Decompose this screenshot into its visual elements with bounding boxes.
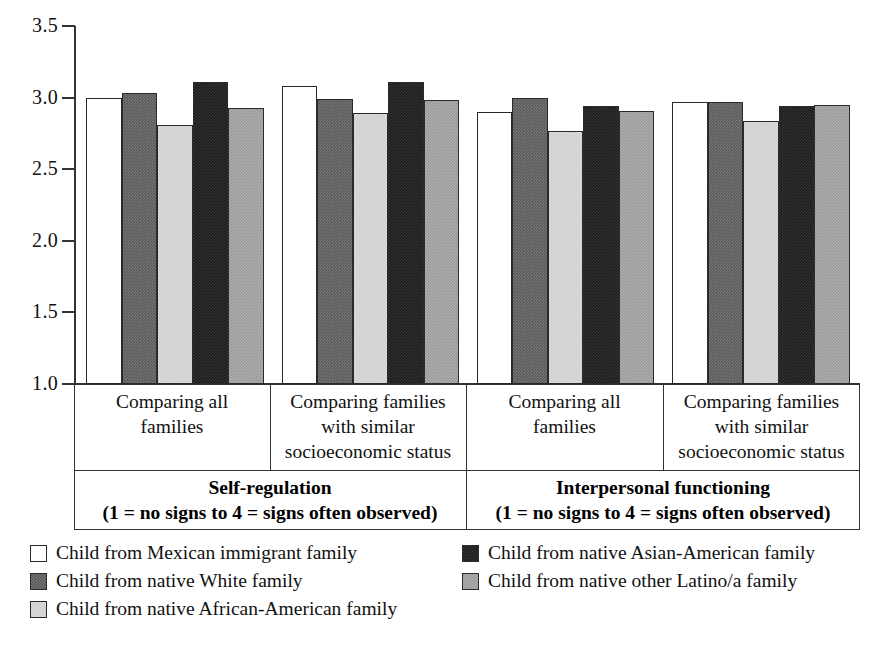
y-axis-tick-label: 2.0 <box>2 230 58 250</box>
panel-title-text: Self-regulation <box>74 475 466 500</box>
group-label-line: Comparing all <box>466 389 663 414</box>
category-label-band: Comparing allfamiliesComparing familiesw… <box>74 385 860 530</box>
legend-item: Child from native White family <box>30 568 303 594</box>
legend-label: Child from native other Latino/a family <box>488 570 797 592</box>
legend-label: Child from native African-American famil… <box>56 598 397 620</box>
bar <box>512 98 548 384</box>
y-axis-tick-label: 1.5 <box>2 301 58 321</box>
bar <box>388 82 424 384</box>
panel-subtitle-text: (1 = no signs to 4 = signs often observe… <box>466 500 860 525</box>
bar <box>193 82 229 384</box>
group-label-line: with similar <box>270 414 466 439</box>
panel-title-text: Interpersonal functioning <box>466 475 860 500</box>
bar <box>583 106 619 384</box>
bar <box>814 105 850 384</box>
panel-title-rule <box>466 470 860 471</box>
legend-swatch-icon <box>462 573 479 590</box>
group-label-line: socioeconomic status <box>270 439 466 464</box>
legend-swatch-icon <box>30 545 47 562</box>
bar <box>708 102 744 384</box>
group-label-line: Comparing families <box>270 389 466 414</box>
group-label-line: families <box>74 414 270 439</box>
bar <box>282 86 318 384</box>
bar-chart-figure: 3.53.02.52.01.51.0 Comparing allfamilies… <box>0 0 874 647</box>
bar <box>743 121 779 384</box>
bar <box>86 98 122 384</box>
panel-title-rule <box>74 470 466 471</box>
group-label: Comparing allfamilies <box>466 389 663 439</box>
bar <box>548 131 584 384</box>
group-label-line: families <box>466 414 663 439</box>
panel-title: Interpersonal functioning(1 = no signs t… <box>466 475 860 525</box>
bar <box>317 99 353 384</box>
group-label: Comparing familieswith similarsocioecono… <box>270 389 466 464</box>
legend-swatch-icon <box>462 545 479 562</box>
legend-item: Child from native Asian-American family <box>462 540 815 566</box>
y-axis-tick-label: 3.5 <box>2 15 58 35</box>
group-label-line: Comparing families <box>663 389 860 414</box>
legend-label: Child from native White family <box>56 570 303 592</box>
group-label: Comparing familieswith similarsocioecono… <box>663 389 860 464</box>
plot-area <box>74 26 858 384</box>
bar <box>477 112 513 384</box>
legend-swatch-icon <box>30 573 47 590</box>
group-label-line: Comparing all <box>74 389 270 414</box>
bar <box>353 113 389 384</box>
panel-title: Self-regulation(1 = no signs to 4 = sign… <box>74 475 466 525</box>
bar <box>672 102 708 384</box>
legend-label: Child from native Asian-American family <box>488 542 815 564</box>
group-label-line: socioeconomic status <box>663 439 860 464</box>
bar <box>157 125 193 384</box>
legend-item: Child from Mexican immigrant family <box>30 540 357 566</box>
chart-legend: Child from Mexican immigrant familyChild… <box>30 540 850 635</box>
legend-item: Child from native other Latino/a family <box>462 568 797 594</box>
y-axis-tick-label: 1.0 <box>2 373 58 393</box>
legend-label: Child from Mexican immigrant family <box>56 542 357 564</box>
legend-swatch-icon <box>30 601 47 618</box>
bar <box>122 93 158 384</box>
bar <box>619 111 655 385</box>
bar <box>228 108 264 384</box>
y-axis-tick-label: 2.5 <box>2 158 58 178</box>
bar <box>779 106 815 384</box>
group-label: Comparing allfamilies <box>74 389 270 439</box>
y-axis-tick-label: 3.0 <box>2 87 58 107</box>
band-bottom-rule <box>74 529 860 530</box>
bar <box>424 100 460 384</box>
legend-item: Child from native African-American famil… <box>30 596 397 622</box>
panel-subtitle-text: (1 = no signs to 4 = signs often observe… <box>74 500 466 525</box>
group-label-line: with similar <box>663 414 860 439</box>
